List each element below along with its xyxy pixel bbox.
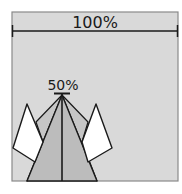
height-label: 50% — [47, 77, 78, 93]
width-label: 100% — [72, 13, 118, 32]
wedge-diagram: 100% 50% — [0, 0, 182, 194]
